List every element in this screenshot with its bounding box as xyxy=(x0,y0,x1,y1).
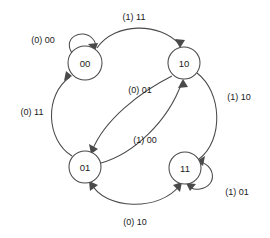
edge-label-self-00: (0) 00 xyxy=(31,35,55,45)
edge-label-right: (1) 10 xyxy=(227,92,251,102)
edge-label-top: (1) 11 xyxy=(123,12,146,22)
transition-01-11-bottom: (0) 10 xyxy=(89,181,182,227)
edge-path-left xyxy=(51,77,72,156)
edge-label-left: (0) 11 xyxy=(21,107,44,117)
transition-10-to-01-cross: (0) 01 xyxy=(89,76,172,154)
transition-10-to-11-right: (1) 10 xyxy=(197,73,251,166)
edge-label-self-11: (1) 01 xyxy=(225,187,249,197)
edge-label-cross-lower: (1) 00 xyxy=(133,135,157,145)
diagram-canvas: (1) 11 (0) 00 (0) 11 (0) 01 (1) 00 xyxy=(0,0,270,238)
state-node-00[interactable]: 00 xyxy=(68,46,102,80)
edge-path-right xyxy=(197,73,217,159)
edge-label-bottom: (0) 10 xyxy=(123,217,147,227)
state-node-11[interactable]: 11 xyxy=(169,152,201,184)
edge-label-cross-upper: (0) 01 xyxy=(128,85,152,95)
state-label-00: 00 xyxy=(80,58,91,69)
state-label-01: 01 xyxy=(80,162,91,173)
state-node-01[interactable]: 01 xyxy=(69,151,101,183)
edge-path-top xyxy=(97,28,180,48)
transition-00-to-10-top: (1) 11 xyxy=(97,12,185,48)
transition-01-to-00-left: (0) 11 xyxy=(21,71,72,156)
arrowhead-cross-lower xyxy=(178,79,188,88)
edge-path-bottom xyxy=(91,183,180,204)
state-diagram: (1) 11 (0) 00 (0) 11 (0) 01 (1) 00 xyxy=(0,0,270,238)
state-label-11: 11 xyxy=(180,163,190,174)
state-node-10[interactable]: 10 xyxy=(168,47,200,79)
state-label-10: 10 xyxy=(179,58,190,69)
